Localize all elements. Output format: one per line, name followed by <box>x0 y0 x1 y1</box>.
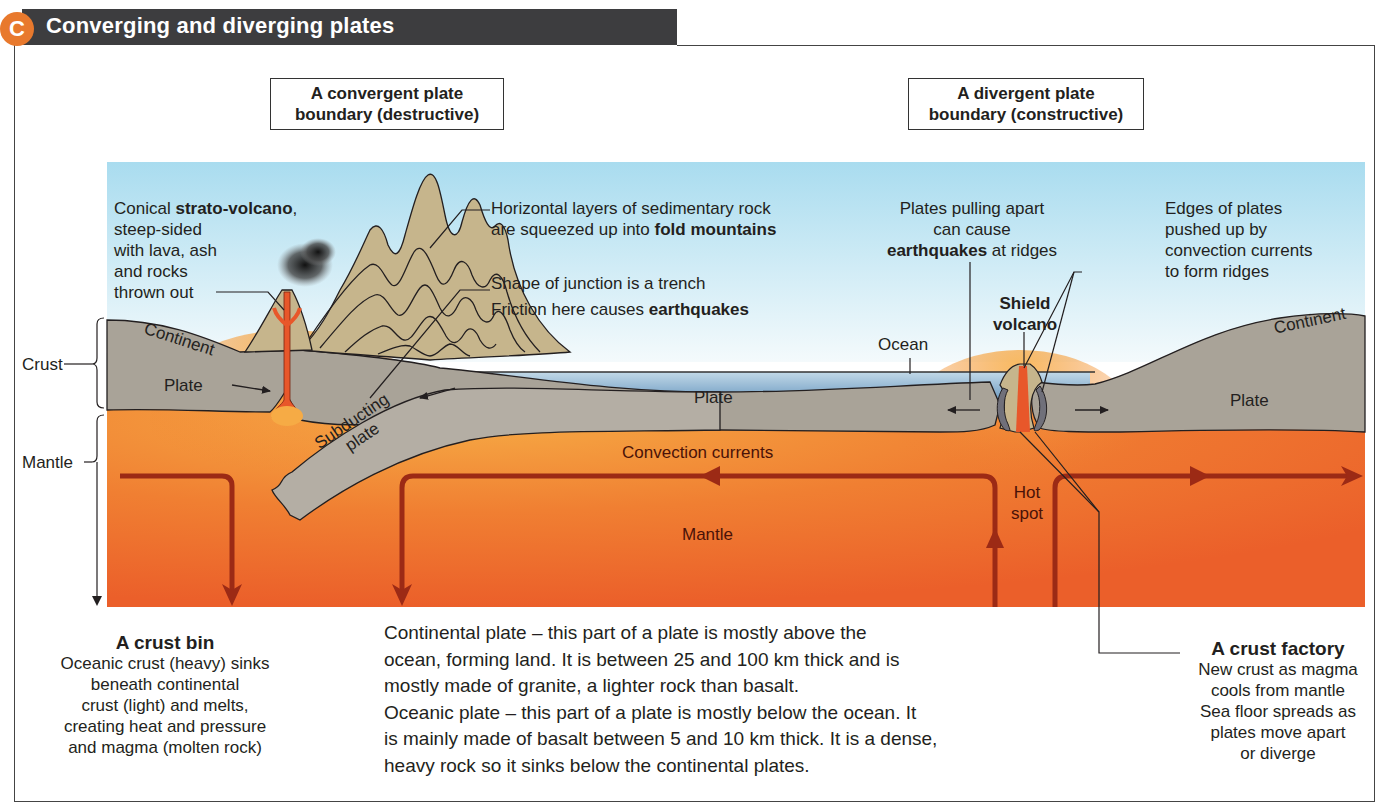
crust-factory-line: New crust as magma <box>1178 659 1378 680</box>
mantle-label: Mantle <box>682 524 733 545</box>
crust-side-label: Crust <box>22 354 63 375</box>
description-line: is mainly made of basalt between 5 and 1… <box>384 726 1024 753</box>
crust-bin-line: Oceanic crust (heavy) sinks <box>30 653 300 674</box>
mantle-side-label: Mantle <box>22 452 73 473</box>
ridge-edges-annotation: Edges of plates pushed up by convection … <box>1165 198 1312 282</box>
crust-factory-line: cools from mantle <box>1178 680 1378 701</box>
crust-factory-panel: A crust factory New crust as magma cools… <box>1178 638 1378 764</box>
description-line: Continental plate – this part of a plate… <box>384 620 1024 647</box>
plate-left-label: Plate <box>164 375 203 396</box>
crust-bin-line: crust (light) and melts, <box>30 695 300 716</box>
shield-volcano-label: Shield volcano <box>985 293 1065 335</box>
hot-spot-label: Hot spot <box>1005 482 1049 524</box>
description-line: ocean, forming land. It is between 25 an… <box>384 647 1024 674</box>
trench-annotation: Shape of junction is a trench Friction h… <box>491 273 749 320</box>
crust-bin-line: and magma (molten rock) <box>30 737 300 758</box>
ridge-earthquakes-annotation: Plates pulling apart can cause earthquak… <box>872 198 1072 261</box>
ocean-label: Ocean <box>878 334 928 355</box>
section-title: Converging and diverging plates <box>46 13 394 39</box>
strato-volcano-annotation: Conical strato-volcano, steep-sided with… <box>114 198 297 303</box>
crust-factory-line: plates move apart <box>1178 722 1378 743</box>
crust-bin-line: creating heat and pressure <box>30 716 300 737</box>
crust-bin-title: A crust bin <box>30 632 300 653</box>
crust-bin-line: beneath continental <box>30 674 300 695</box>
plate-types-description: Continental plate – this part of a plate… <box>384 620 1024 779</box>
fold-mountains-annotation: Horizontal layers of sedimentary rock ar… <box>491 198 776 240</box>
convection-currents-label: Convection currents <box>622 442 773 463</box>
plate-right-label: Plate <box>1230 390 1269 411</box>
crust-factory-line: or diverge <box>1178 743 1378 764</box>
section-badge: C <box>0 12 34 46</box>
description-line: mostly made of granite, a lighter rock t… <box>384 673 1024 700</box>
description-line: heavy rock so it sinks below the contine… <box>384 753 1024 780</box>
crust-factory-title: A crust factory <box>1178 638 1378 659</box>
crust-factory-line: Sea floor spreads as <box>1178 701 1378 722</box>
crust-bin-panel: A crust bin Oceanic crust (heavy) sinks … <box>30 632 300 758</box>
plate-middle-label: Plate <box>694 387 733 408</box>
description-line: Oceanic plate – this part of a plate is … <box>384 700 1024 727</box>
